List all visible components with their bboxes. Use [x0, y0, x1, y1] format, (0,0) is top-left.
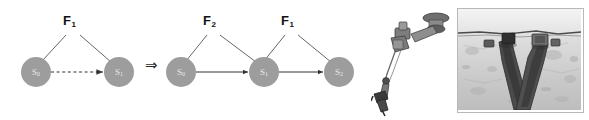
robot-arm-illustration — [371, 2, 457, 118]
gripper-on-rock-illustration — [458, 9, 581, 110]
node-s2-right[interactable]: S2 — [324, 57, 354, 87]
factor-link-f1-s0 — [42, 35, 66, 61]
node-label: S1 — [260, 68, 268, 77]
factor-label-f1-right: F1 — [281, 14, 294, 29]
factor-link-f2-s1 — [220, 35, 256, 62]
implication-arrow: ⇒ — [145, 58, 158, 73]
node-label: S0 — [177, 68, 185, 77]
node-s1-right[interactable]: S1 — [249, 57, 279, 87]
factor-label-f1-left: F1 — [63, 14, 76, 29]
factor-link-f1-s1 — [80, 35, 111, 62]
node-s1-left[interactable]: S1 — [104, 57, 134, 87]
figure-root: F1 S0 S1 ⇒ F2 F1 S0 S1 S2 — [0, 0, 589, 120]
photo-gripper-on-rock — [457, 8, 584, 113]
factor-link-f1b-s2 — [298, 35, 331, 62]
factor-label-f2: F2 — [203, 14, 216, 29]
factor-link-f2-s0 — [186, 35, 207, 61]
node-label: S1 — [115, 68, 123, 77]
photo-robot-arm — [371, 2, 457, 118]
node-label: S0 — [32, 68, 40, 77]
node-label: S2 — [335, 68, 343, 77]
node-s0-right[interactable]: S0 — [166, 57, 196, 87]
node-s0-left[interactable]: S0 — [21, 57, 51, 87]
